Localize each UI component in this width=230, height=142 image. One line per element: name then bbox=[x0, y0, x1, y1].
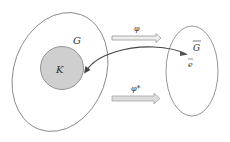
image-group-label: G bbox=[193, 41, 201, 53]
image-group-ellipse bbox=[166, 26, 218, 116]
phi-star-arrow bbox=[112, 93, 160, 104]
svg-text:e: e bbox=[188, 60, 193, 69]
phi-arrow bbox=[112, 34, 161, 43]
group-g-label: G bbox=[73, 35, 81, 46]
phi-label: φ bbox=[134, 24, 140, 33]
svg-text:G: G bbox=[193, 43, 200, 53]
subgroup-k-label: K bbox=[55, 64, 64, 75]
phi-star-label: φ* bbox=[131, 84, 141, 93]
identity-label: e bbox=[188, 59, 193, 69]
curved-arrow-to-k bbox=[84, 47, 188, 74]
kernel-homomorphism-diagram: G K φ φ* G e bbox=[0, 0, 230, 142]
